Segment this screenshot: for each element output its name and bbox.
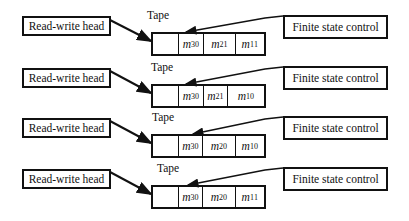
tape: m30 m20 m11 bbox=[151, 185, 266, 209]
tape-cell: m20 bbox=[202, 187, 234, 207]
tape-cell bbox=[153, 187, 178, 207]
read-write-head-label: Read-write head bbox=[29, 173, 105, 185]
tape-cell: m20 bbox=[202, 136, 234, 156]
tape-cell: m30 bbox=[178, 86, 204, 106]
finite-state-control-label: Finite state control bbox=[292, 122, 378, 134]
finite-state-control-box: Finite state control bbox=[283, 15, 388, 39]
tape: m30 m21 m10 bbox=[151, 84, 266, 108]
tape-cell bbox=[153, 34, 178, 54]
tape-cell: m30 bbox=[178, 187, 203, 207]
tape-cell: m11 bbox=[235, 187, 264, 207]
finite-state-control-label: Finite state control bbox=[292, 173, 378, 185]
read-write-head-label: Read-write head bbox=[29, 20, 105, 32]
tape-cell: m21 bbox=[203, 34, 234, 54]
tape-label: Tape bbox=[152, 111, 174, 123]
read-write-head-box: Read-write head bbox=[22, 169, 111, 189]
tape-cell: m30 bbox=[178, 34, 204, 54]
tape-label: Tape bbox=[147, 9, 169, 21]
tape: m30 m20 m10 bbox=[151, 134, 266, 158]
tape: m30 m21 m11 bbox=[151, 32, 266, 56]
finite-state-control-box: Finite state control bbox=[283, 116, 388, 140]
tape-label: Tape bbox=[151, 61, 173, 73]
finite-state-control-label: Finite state control bbox=[292, 21, 378, 33]
tape-cell: m30 bbox=[178, 136, 203, 156]
read-write-head-box: Read-write head bbox=[22, 118, 111, 138]
tape-label: Tape bbox=[157, 162, 179, 174]
tape-cell bbox=[153, 86, 178, 106]
read-write-head-label: Read-write head bbox=[29, 72, 105, 84]
read-write-head-label: Read-write head bbox=[29, 122, 105, 134]
tape-cell bbox=[153, 136, 178, 156]
finite-state-control-label: Finite state control bbox=[292, 72, 378, 84]
read-write-head-box: Read-write head bbox=[22, 68, 111, 88]
read-write-head-box: Read-write head bbox=[22, 16, 111, 36]
tape-cell: m10 bbox=[227, 86, 264, 106]
finite-state-control-box: Finite state control bbox=[283, 167, 388, 191]
finite-state-control-box: Finite state control bbox=[283, 66, 388, 90]
tape-cell: m21 bbox=[203, 86, 227, 106]
tape-cell: m10 bbox=[235, 136, 264, 156]
tape-cell: m11 bbox=[235, 34, 264, 54]
